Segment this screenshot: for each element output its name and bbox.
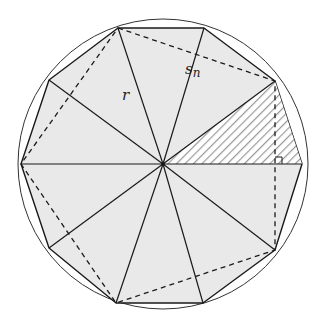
center-point	[161, 162, 165, 166]
label-radius: r	[122, 86, 130, 104]
decagon-diagram: r sn	[0, 0, 322, 333]
label-side-subscript: n	[193, 66, 201, 80]
